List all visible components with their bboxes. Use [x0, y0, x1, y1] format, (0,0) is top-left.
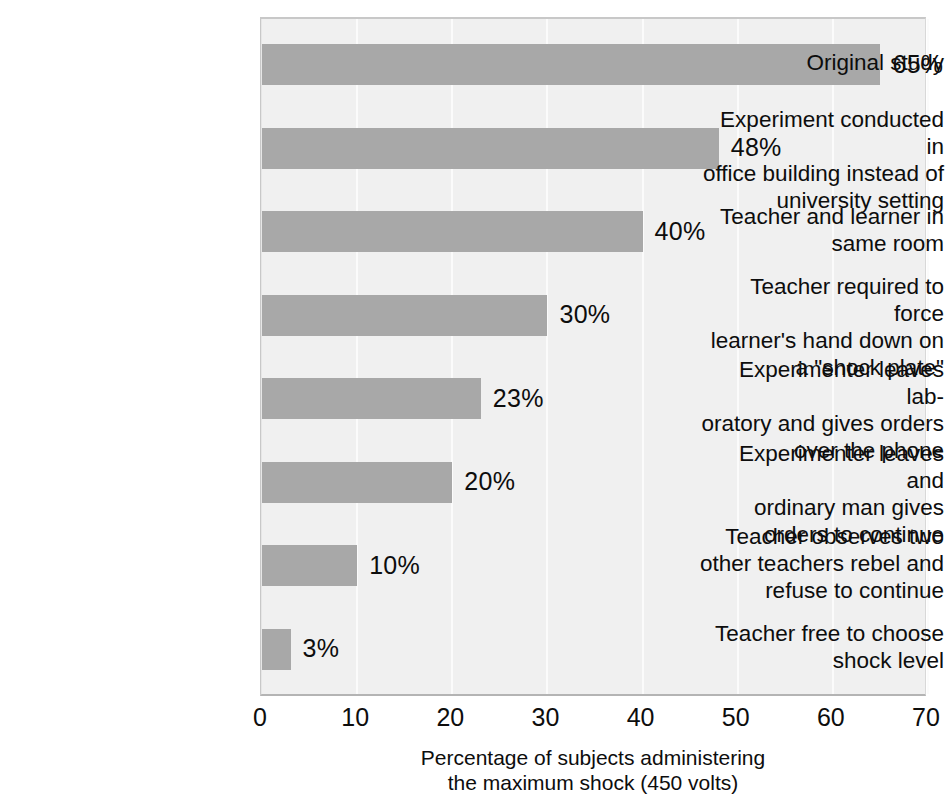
- gridline-30: [546, 19, 548, 694]
- x-tick-50: 50: [722, 703, 750, 732]
- bar-chart: 65%48%40%30%23%20%10%3% Original studyEx…: [0, 0, 952, 807]
- x-tick-20: 20: [436, 703, 464, 732]
- gridline-0: [261, 19, 262, 694]
- bar: [262, 378, 481, 419]
- bar-value-label: 3%: [303, 634, 340, 663]
- bar-value-label: 23%: [493, 383, 544, 412]
- category-label: Teacher observes two other teachers rebe…: [700, 523, 952, 604]
- x-tick-30: 30: [532, 703, 560, 732]
- bar-value-label: 30%: [559, 300, 610, 329]
- category-label: Teacher free to choose shock level: [700, 620, 952, 674]
- x-axis-title: Percentage of subjects administering the…: [260, 745, 926, 795]
- x-tick-60: 60: [817, 703, 845, 732]
- x-tick-0: 0: [253, 703, 267, 732]
- gridline-10: [356, 19, 358, 694]
- bar-value-label: 20%: [464, 467, 515, 496]
- category-label: Experiment conducted in office building …: [700, 106, 952, 214]
- gridline-20: [451, 19, 453, 694]
- x-tick-10: 10: [341, 703, 369, 732]
- bar: [262, 629, 291, 670]
- bar-value-label: 40%: [655, 216, 706, 245]
- bar: [262, 545, 357, 586]
- bar: [262, 462, 452, 503]
- category-label: Teacher and learner in same room: [700, 203, 952, 257]
- bar: [262, 295, 547, 336]
- x-tick-40: 40: [627, 703, 655, 732]
- bar: [262, 211, 643, 252]
- gridline-40: [642, 19, 644, 694]
- bar: [262, 128, 719, 169]
- x-tick-70: 70: [912, 703, 940, 732]
- bar-value-label: 10%: [369, 550, 420, 579]
- category-label: Original study: [700, 49, 952, 76]
